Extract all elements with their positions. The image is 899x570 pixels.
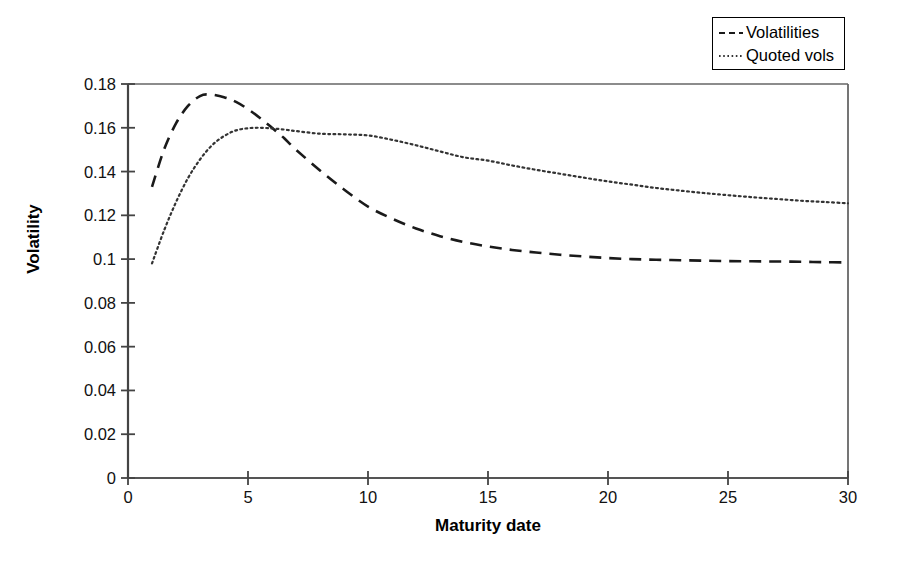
- y-tick-label: 0.08: [36, 293, 116, 312]
- x-tick-label: 30: [839, 488, 857, 507]
- y-tick-label: 0.06: [36, 337, 116, 356]
- plot-frame: [128, 84, 848, 478]
- volatility-chart-figure: Volatility Maturity date Volatilities Qu…: [0, 0, 899, 570]
- y-tick-label: 0.04: [36, 381, 116, 400]
- x-tick-label: 5: [243, 488, 252, 507]
- y-tick-label: 0.16: [36, 118, 116, 137]
- x-tick-label: 25: [719, 488, 737, 507]
- axis-ticks: [121, 84, 848, 485]
- y-tick-label: 0.1: [36, 250, 116, 269]
- x-tick-label: 10: [359, 488, 377, 507]
- y-tick-label: 0.12: [36, 206, 116, 225]
- x-tick-label: 20: [599, 488, 617, 507]
- plot-area: [0, 0, 899, 570]
- series-line-volatilities: [152, 94, 848, 262]
- x-tick-label: 0: [123, 488, 132, 507]
- x-tick-label: 15: [479, 488, 497, 507]
- y-tick-label: 0.02: [36, 425, 116, 444]
- data-series-group: [152, 94, 848, 263]
- y-tick-label: 0.18: [36, 75, 116, 94]
- y-tick-label: 0: [36, 469, 116, 488]
- series-line-quoted-vols: [152, 128, 848, 264]
- y-tick-label: 0.14: [36, 162, 116, 181]
